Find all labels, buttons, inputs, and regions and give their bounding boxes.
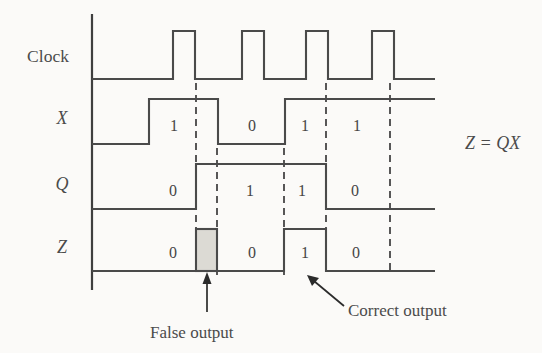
bit-label-z-0: 0 xyxy=(169,244,177,261)
bit-label-z-1: 0 xyxy=(248,244,256,261)
waveform-layer xyxy=(92,31,435,271)
correct-output-label: Correct output xyxy=(348,301,447,320)
timing-diagram-figure: Clock X Q Z 101101100010 Z = QX False ou… xyxy=(0,0,542,353)
waveform-q xyxy=(92,164,435,209)
false-output-label: False output xyxy=(150,323,234,342)
row-label-z: Z xyxy=(57,237,68,257)
bit-label-q-2: 1 xyxy=(298,182,306,199)
annotation-correct-output: Correct output xyxy=(307,275,447,320)
row-label-x: X xyxy=(56,108,69,128)
bit-label-x-1: 0 xyxy=(248,117,256,134)
bit-label-x-2: 1 xyxy=(301,117,309,134)
false-output-arrow-head-icon xyxy=(203,272,212,284)
shaded-pulse-layer xyxy=(196,229,217,271)
equation-label: Z = QX xyxy=(465,133,521,153)
bit-label-x-0: 1 xyxy=(170,117,178,134)
bit-label-x-3: 1 xyxy=(353,117,361,134)
bit-label-q-0: 0 xyxy=(169,182,177,199)
row-labels: Clock X Q Z xyxy=(27,46,69,257)
shaded-false-output-pulse xyxy=(196,229,217,271)
waveform-x xyxy=(92,99,435,144)
dashed-marker-layer xyxy=(196,83,390,275)
waveform-clock xyxy=(92,31,435,79)
bit-label-z-3: 0 xyxy=(352,244,360,261)
bit-label-q-1: 1 xyxy=(246,182,254,199)
timing-diagram-svg: Clock X Q Z 101101100010 Z = QX False ou… xyxy=(0,0,542,353)
bit-label-z-2: 1 xyxy=(301,244,309,261)
annotation-false-output: False output xyxy=(150,272,234,342)
row-label-clock: Clock xyxy=(27,46,69,66)
bit-label-q-3: 0 xyxy=(351,182,359,199)
correct-output-arrow-shaft xyxy=(314,281,344,306)
waveform-z xyxy=(92,229,435,271)
row-label-q: Q xyxy=(56,174,69,194)
